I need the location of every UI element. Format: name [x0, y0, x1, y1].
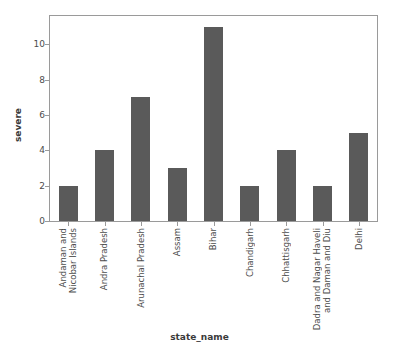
- x-axis-category-label: Bihar: [195, 228, 231, 328]
- x-axis-category-label-line: Chhattisgarh: [281, 228, 291, 283]
- bar: [277, 150, 296, 221]
- bar: [95, 150, 114, 221]
- x-axis-tick-mark: [68, 222, 69, 226]
- bar: [349, 133, 368, 221]
- x-axis-tick-mark: [359, 222, 360, 226]
- x-axis-category-label-line: Andaman and: [58, 228, 68, 287]
- x-axis-tick-mark: [177, 222, 178, 226]
- x-axis-ticks: [50, 222, 377, 227]
- bar-chart: severe 0246810 Andaman andNicobar Island…: [0, 0, 399, 358]
- bar: [240, 186, 259, 221]
- x-axis-category-label-line: Chandigarh: [245, 228, 255, 277]
- x-axis-category-label: Arunachal Pradesh: [123, 228, 159, 328]
- x-axis-category-label-line: Nicobar Islands: [68, 228, 78, 293]
- x-axis-category-label: Chandigarh: [232, 228, 268, 328]
- bar: [59, 186, 78, 221]
- x-axis-category-label-line: Arunachal Pradesh: [136, 228, 146, 308]
- x-axis-category-label-line: Delhi: [354, 228, 364, 250]
- bar: [313, 186, 332, 221]
- x-axis-category-label: Dadra and Nagar Haveliand Daman and Diu: [304, 228, 340, 328]
- x-axis-tick-mark: [141, 222, 142, 226]
- x-axis-tick-mark: [105, 222, 106, 226]
- y-axis-ticks: 0246810: [0, 0, 49, 358]
- x-axis-category-label: Delhi: [341, 228, 377, 328]
- x-axis-category-label-line: Assam: [172, 228, 182, 256]
- x-axis-category-label-line: Andra Pradesh: [99, 228, 109, 290]
- x-axis-tick-mark: [214, 222, 215, 226]
- x-axis-category-label: Assam: [159, 228, 195, 328]
- bar: [168, 168, 187, 221]
- x-axis-tick-mark: [286, 222, 287, 226]
- x-axis-category-label-line: Bihar: [208, 228, 218, 250]
- x-axis-category-label: Andaman andNicobar Islands: [50, 228, 86, 328]
- x-axis-category-label: Andra Pradesh: [86, 228, 122, 328]
- x-axis-category-label-line: and Daman and Diu: [322, 228, 332, 313]
- bars-layer: [50, 16, 377, 221]
- x-axis-category-label: Chhattisgarh: [268, 228, 304, 328]
- x-axis-category-label-line: Dadra and Nagar Haveli: [312, 228, 322, 330]
- bar: [131, 97, 150, 221]
- x-axis-labels: Andaman andNicobar IslandsAndra PradeshA…: [50, 228, 377, 328]
- x-axis-tick-mark: [250, 222, 251, 226]
- x-axis-title: state_name: [0, 332, 399, 342]
- y-axis-tick-label: 10: [34, 39, 45, 49]
- x-axis-tick-mark: [323, 222, 324, 226]
- bar: [204, 27, 223, 221]
